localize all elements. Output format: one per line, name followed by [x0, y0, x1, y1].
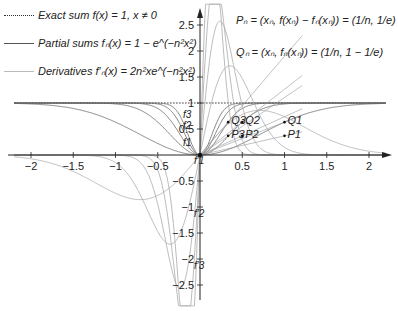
y-axis-arrow-icon	[197, 8, 203, 18]
legend-exact-sum: Exact sum f(x) = 1, x ≠ 0	[4, 8, 157, 22]
point-label: Q1	[288, 114, 303, 126]
point-q1	[283, 121, 286, 124]
legend-swatch-dotted	[4, 15, 34, 16]
y-tick-label: 2.5	[179, 19, 194, 31]
legend-label: Exact sum f(x) = 1, x ≠ 0	[38, 9, 157, 21]
x-tick-label: 0.5	[235, 160, 250, 172]
curve-label: f1	[183, 137, 191, 148]
curve-label: f2	[183, 120, 192, 131]
curve-label: f′1	[194, 155, 204, 166]
annotation-q-definition: Qₙ = (xₙ, fₙ(xₙ)) = (1/n, 1 − 1/e)	[236, 46, 383, 59]
curve-label: f′3	[194, 260, 205, 271]
x-tick-label: −1.5	[62, 160, 84, 172]
point-p3	[227, 135, 230, 138]
point-q3	[227, 121, 230, 124]
x-tick-label: 2	[366, 160, 372, 172]
point-label: Q2	[245, 114, 260, 126]
legend-swatch-solid-dark	[4, 43, 34, 44]
point-label: P2	[245, 128, 258, 140]
x-tick-label: −2	[25, 160, 38, 172]
y-tick-label: −2	[181, 253, 194, 265]
x-tick-label: 1	[281, 160, 287, 172]
legend-derivatives: Derivatives f′ₙ(x) = 2n²xe^(−n²x²)	[4, 64, 195, 78]
legend-label: Partial sums fₙ(x) = 1 − e^(−n²x²)	[38, 37, 197, 50]
point-label: Q3	[231, 114, 247, 126]
point-label: P1	[288, 128, 301, 140]
x-tick-label: −1	[109, 160, 122, 172]
y-tick-label: −1.5	[172, 227, 194, 239]
point-p1	[283, 135, 286, 138]
curve-label: f′2	[194, 208, 205, 219]
legend-partial-sums: Partial sums fₙ(x) = 1 − e^(−n²x²)	[4, 36, 197, 50]
x-tick-label: −0.5	[147, 160, 169, 172]
y-tick-label: −2.5	[172, 279, 194, 291]
legend-swatch-solid-light	[4, 71, 34, 72]
annotation-p-definition: Pₙ = (xₙ, f(xₙ) − fₙ(xₙ)) = (1/n, 1/e)	[236, 14, 396, 27]
y-tick-label: 1	[188, 97, 194, 109]
point-label: P3	[231, 128, 245, 140]
legend-label: Derivatives f′ₙ(x) = 2n²xe^(−n²x²)	[38, 65, 195, 78]
y-tick-label: −0.5	[172, 175, 194, 187]
x-tick-label: 1.5	[319, 160, 334, 172]
x-axis-arrow-icon	[382, 152, 392, 158]
curve-label: f3	[183, 109, 192, 120]
y-tick-label: −1	[181, 201, 194, 213]
